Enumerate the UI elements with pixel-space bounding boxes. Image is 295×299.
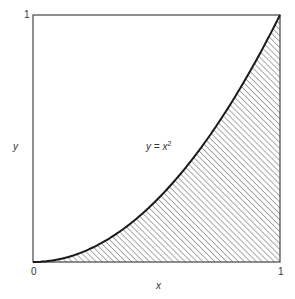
y-axis-label: y xyxy=(13,142,18,152)
x-axis-label: x xyxy=(156,281,161,291)
curve-equation-exponent: 2 xyxy=(167,140,171,147)
curve-equation-base: y = x xyxy=(146,141,167,152)
shaded-area-under-curve xyxy=(33,15,280,262)
x-tick-0: 0 xyxy=(31,267,37,277)
y-tick-1: 1 xyxy=(24,10,30,20)
curve-equation-label: y = x2 xyxy=(146,140,171,152)
x-tick-1: 1 xyxy=(278,267,284,277)
